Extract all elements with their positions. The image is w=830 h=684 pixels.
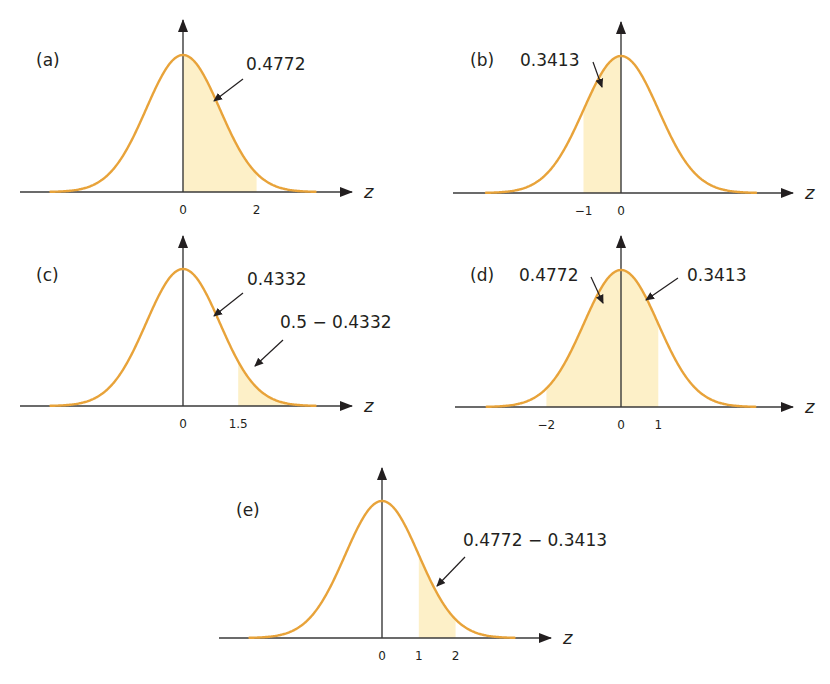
tick-label: 1 [654, 418, 662, 432]
tick-label: 2 [452, 649, 460, 663]
tick-label: 0 [617, 418, 625, 432]
panel-d: z−201(d)0.47720.3413 [455, 236, 815, 432]
panel-c: z01.5(c)0.43320.5 − 0.4332 [20, 236, 392, 431]
annotation-arrow [255, 340, 283, 366]
axis-label-z: z [562, 627, 573, 648]
tick-label: 0 [378, 649, 386, 663]
annotation-arrow [646, 278, 678, 300]
tick-label: 0 [179, 203, 187, 217]
annotation-arrow [437, 557, 465, 586]
annotation-value: 0.3413 [520, 50, 579, 70]
annotation-value: 0.5 − 0.4332 [280, 312, 392, 332]
panel-label: (c) [36, 265, 59, 285]
axis-label-z: z [804, 182, 815, 203]
annotation-value: 0.4772 [246, 54, 305, 74]
panel-e: z012(e)0.4772 − 0.3413 [219, 468, 607, 663]
panel-b: z−10(b)0.3413 [453, 22, 815, 218]
tick-label: 1 [415, 649, 423, 663]
tick-label: 1.5 [229, 417, 248, 431]
tick-label: 2 [253, 203, 261, 217]
figure-canvas: z02(a)0.4772z−10(b)0.3413z01.5(c)0.43320… [0, 0, 830, 684]
annotation-value: 0.4772 [519, 265, 578, 285]
annotation-arrow [214, 79, 243, 101]
annotation-value: 0.4332 [247, 269, 306, 289]
tick-label: −1 [575, 204, 593, 218]
annotation-value: 0.4772 − 0.3413 [463, 530, 607, 550]
shaded-area [238, 362, 315, 406]
panel-label: (b) [470, 50, 494, 70]
annotation-arrow [214, 293, 243, 316]
panel-a: z02(a)0.4772 [20, 20, 374, 217]
annotation-value: 0.3413 [687, 265, 746, 285]
tick-label: −2 [538, 418, 556, 432]
panel-label: (a) [36, 50, 60, 70]
tick-label: 0 [617, 204, 625, 218]
axis-label-z: z [804, 396, 815, 417]
panel-label: (d) [470, 265, 494, 285]
shaded-area [584, 56, 622, 193]
axis-label-z: z [363, 181, 374, 202]
panel-label: (e) [236, 500, 260, 520]
shaded-area [183, 55, 257, 192]
axis-label-z: z [363, 395, 374, 416]
normal-distribution-figure: z02(a)0.4772z−10(b)0.3413z01.5(c)0.43320… [0, 0, 830, 684]
tick-label: 0 [179, 417, 187, 431]
